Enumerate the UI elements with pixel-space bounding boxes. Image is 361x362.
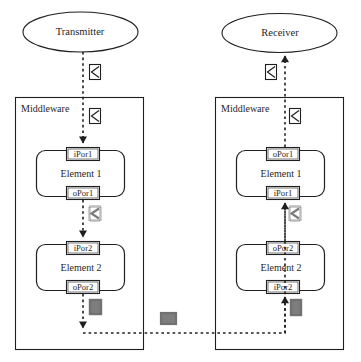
message-envelope-icon (161, 313, 176, 324)
message-envelope-icon (290, 109, 301, 124)
right-element-2-output-port-label: oPor2 (273, 244, 294, 253)
diagram-vector-layer (0, 0, 361, 362)
middleware-left-label: Middleware (21, 104, 69, 114)
message-envelope-icon (290, 207, 301, 221)
left-element-2-label: Element 2 (61, 263, 102, 273)
left-element-1-output-port-label: oPor1 (73, 189, 94, 198)
message-envelope-icon (266, 65, 277, 80)
message-envelope-icon (291, 300, 301, 315)
transmitter-label: Transmitter (56, 27, 105, 38)
right-element-1-input-port-label: iPor1 (274, 189, 293, 198)
left-element-2-input-port-label: iPor2 (74, 244, 93, 253)
left-element-1-input-port-label: iPor1 (74, 150, 93, 159)
receiver-label: Receiver (261, 28, 298, 39)
middleware-left-box (16, 98, 144, 350)
middleware-right-box (216, 98, 344, 350)
message-envelope-icon (90, 109, 101, 124)
diagram-canvas: Transmitter Receiver Middleware Middlewa… (0, 0, 361, 362)
message-envelope-icon (90, 65, 101, 80)
left-element-1-label: Element 1 (61, 169, 102, 179)
left-element-2-output-port-label: oPor2 (73, 283, 94, 292)
right-element-2-input-port-label: iPor2 (274, 283, 293, 292)
right-element-1-label: Element 1 (261, 169, 302, 179)
right-element-1-output-port-label: oPor1 (273, 150, 294, 159)
middleware-right-label: Middleware (221, 104, 269, 114)
message-envelope-icon (90, 300, 101, 314)
right-element-2-label: Element 2 (261, 263, 302, 273)
message-envelope-icon (90, 207, 101, 221)
